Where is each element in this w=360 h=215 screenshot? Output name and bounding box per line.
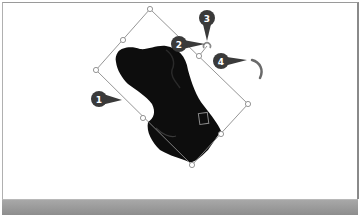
handle-right[interactable] (245, 101, 250, 106)
callout-4-number: 4 (218, 57, 224, 67)
callout-3-number: 3 (204, 14, 210, 24)
callout-2: 2 (171, 36, 205, 52)
handle-bottom-right-mid[interactable] (218, 131, 223, 136)
callout-3: 3 (199, 10, 215, 41)
handle-bottom[interactable] (189, 162, 194, 167)
rotation-handle[interactable] (204, 43, 211, 48)
callout-2-number: 2 (176, 40, 182, 50)
handle-bottom-left-mid[interactable] (140, 115, 145, 120)
selection-stage: 1 2 3 4 (0, 0, 360, 215)
dog-image[interactable] (116, 46, 221, 162)
handle-top-right-mid[interactable] (196, 53, 201, 58)
callout-4: 4 (213, 53, 247, 69)
handle-top-left-mid[interactable] (120, 37, 125, 42)
handle-left[interactable] (93, 67, 98, 72)
callout-1: 1 (91, 91, 122, 107)
callout-1-number: 1 (96, 95, 102, 105)
rotate-icon[interactable] (204, 43, 211, 48)
status-bar (2, 199, 358, 215)
rotate-arrow-icon (252, 60, 262, 78)
handle-top[interactable] (147, 6, 152, 11)
